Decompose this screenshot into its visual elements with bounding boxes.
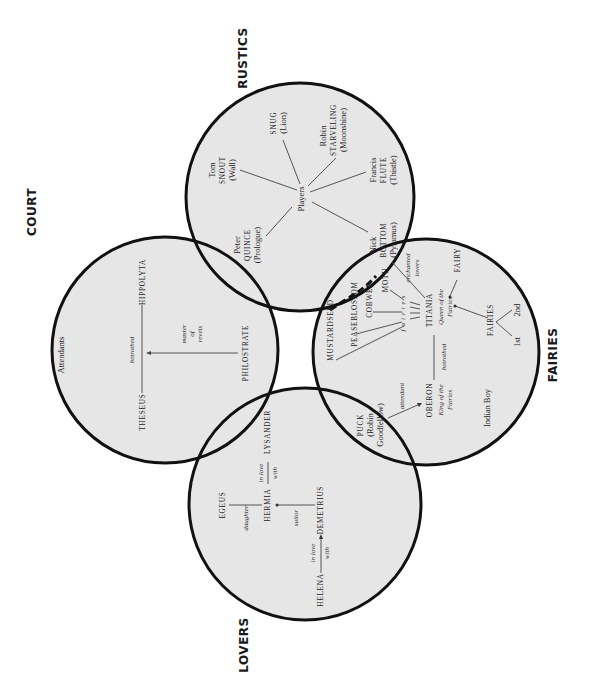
oberon-title-2: Fairies xyxy=(446,390,454,411)
indian-boy: Indian Boy xyxy=(482,388,492,427)
starveling-name: STARVELING xyxy=(330,104,338,156)
flute-role: (Thistle) xyxy=(388,155,398,184)
suitor-label: suitor xyxy=(292,510,300,527)
lovers-title: LOVERS xyxy=(237,617,251,672)
snout-role: (Wall) xyxy=(227,159,237,181)
betrothed-label-fairies: betrothed xyxy=(440,343,448,370)
cobweb-name: COBWEB xyxy=(366,282,374,318)
lysander-name: LYSANDER xyxy=(264,410,272,454)
moth-name: MOTH xyxy=(382,268,390,292)
quince-role: (Prologue) xyxy=(252,227,262,264)
in-love-label-2: in love xyxy=(309,544,317,563)
court-title: COURT xyxy=(25,188,39,236)
bottom-first: Nick xyxy=(368,236,378,253)
quince-first: Peter xyxy=(232,236,242,254)
with-label-1: with xyxy=(271,466,279,479)
titania-name: TITANIA xyxy=(426,293,434,327)
enchanted-label: enchanted xyxy=(404,253,412,282)
starveling-role: (Moonshine) xyxy=(338,108,348,152)
betrothed-label: betrothed xyxy=(128,336,136,363)
titania-title-2: Fairies xyxy=(446,297,454,318)
with-label-2: with xyxy=(323,546,331,559)
snout-first: Tom xyxy=(207,162,217,178)
puck-name: PUCK xyxy=(357,414,365,436)
master-label: master xyxy=(180,324,188,343)
philostrate-name: PHILOSTRATE xyxy=(242,325,250,381)
players-hub: Players xyxy=(296,186,306,211)
bottom-name: BOTTOM xyxy=(380,222,388,257)
rustics-title: RUSTICS xyxy=(236,27,250,88)
quince-name: QUINCE xyxy=(244,229,252,261)
attendants-label: Attendants xyxy=(56,337,66,374)
revels-label: revels xyxy=(196,326,204,343)
demetrius-name: DEMETRIUS xyxy=(317,486,325,534)
lovers-label: lovers xyxy=(413,259,421,276)
egeus-name: EGEUS xyxy=(219,491,227,518)
fairy-name: FAIRY xyxy=(454,248,462,273)
puck-alias-2: Goodfellow) xyxy=(375,403,385,447)
titania-title-1: Queen of the xyxy=(437,289,445,325)
daughter-label: daughter xyxy=(242,505,250,531)
fairies-title: FAIRIES xyxy=(546,328,560,383)
oberon-name: OBERON xyxy=(426,383,434,417)
circle-fills xyxy=(52,83,539,620)
first-fairy: 1st xyxy=(512,336,522,347)
snug-role: (Lion) xyxy=(278,112,288,134)
arrow-head-icon xyxy=(276,504,279,507)
character-diagram: RUSTICS COURT LOVERS FAIRIES Players Tom… xyxy=(0,0,592,693)
snout-name: SNOUT xyxy=(219,156,227,184)
flute-name: FLUTE xyxy=(380,157,388,183)
attendant-label: attendant xyxy=(398,382,406,409)
in-love-label-1: in love xyxy=(257,464,265,483)
mustardseed-name: MUSTARDSEED xyxy=(327,299,335,360)
starveling-first: Robin xyxy=(318,125,328,147)
bottom-role: (Pyramus) xyxy=(388,222,398,258)
second-fairy: 2nd xyxy=(512,303,522,317)
flute-first: Francis xyxy=(368,157,378,182)
peaseblossom-name: PEASEBLOSSOM xyxy=(351,281,359,347)
hermia-name: HERMIA xyxy=(264,488,272,521)
hippolyta-name: HIPPOLYTA xyxy=(139,259,147,305)
arrow-head-icon xyxy=(454,305,457,308)
arrow-head-icon xyxy=(449,296,452,299)
puck-alias-1: (Robin xyxy=(365,412,375,436)
helena-name: HELENA xyxy=(317,573,325,607)
fairies-label: fairies xyxy=(399,293,407,332)
oberon-title-1: King of the xyxy=(437,384,445,416)
theseus-name: THESEUS xyxy=(139,393,147,430)
snug-name: SNUG xyxy=(270,112,278,135)
fairies-group-name: FAIRIES xyxy=(487,304,495,336)
